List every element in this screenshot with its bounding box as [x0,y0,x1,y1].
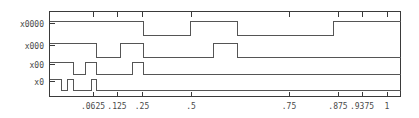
x-axis-labels: .0625.125.25.5.75.875.93751 [81,102,390,111]
plot-frame [50,12,401,97]
y-axis-label-x00: x00 [30,61,45,70]
plot-border [50,12,401,97]
timing-diagram-svg: x0000x000x00x0 .0625.125.25.5.75.875.937… [0,0,419,118]
x-axis-label-p25: .25 [135,102,150,111]
trace-x0 [50,80,401,91]
y-axis-ticks [50,24,55,82]
waveform-traces [50,22,401,91]
y-axis-label-x0000: x0000 [20,20,44,29]
y-axis-label-x0: x0 [34,78,44,87]
chart-figure: x0000x000x00x0 .0625.125.25.5.75.875.937… [0,0,419,118]
x-axis-ticks [94,12,388,97]
trace-x000 [50,44,401,58]
trace-x00 [50,63,401,75]
x-axis-label-p875: .875 [328,102,347,111]
x-axis-label-p9375: .9375 [350,102,374,111]
x-axis-label-p0625: .0625 [81,102,105,111]
trace-x0000 [50,22,401,36]
x-axis-label-p5: .5 [186,102,196,111]
x-axis-label-1: 1 [385,102,390,111]
y-axis-labels: x0000x000x00x0 [20,20,44,87]
x-axis-label-p125: .125 [107,102,126,111]
x-axis-label-p75: .75 [282,102,297,111]
y-axis-label-x000: x000 [25,42,44,51]
